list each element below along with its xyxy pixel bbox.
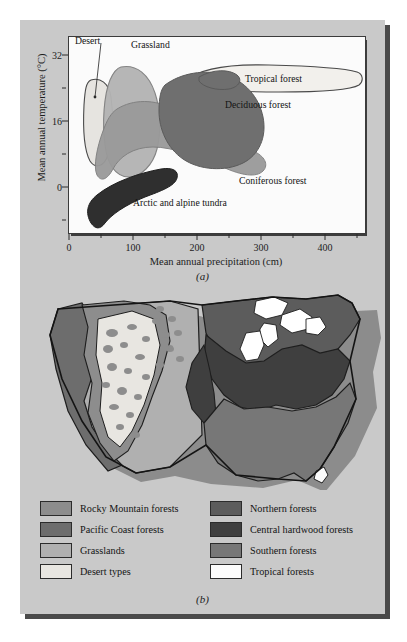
- legend-item-southern-forests[interactable]: Southern forests: [210, 540, 385, 561]
- panel-a-climate-chart: Mean annual temperature (°C) 32 16 0: [20, 20, 385, 270]
- figure-plate: Mean annual temperature (°C) 32 16 0: [20, 20, 385, 614]
- x-tick-label-100: 100: [118, 242, 148, 253]
- legend-swatch-grasslands: [40, 543, 72, 558]
- legend-swatch-central-hardwood-forests: [210, 522, 242, 537]
- biome-label-grassland: Grassland: [131, 39, 170, 50]
- x-tick-label-200: 200: [182, 242, 212, 253]
- y-tick-label-0: 0: [40, 182, 62, 193]
- legend-label-grasslands: Grasslands: [80, 545, 125, 556]
- panel-b-us-biome-map: [20, 275, 385, 490]
- legend-item-desert-types[interactable]: Desert types: [40, 561, 215, 582]
- x-tick-label-300: 300: [246, 242, 276, 253]
- legend-label-northern-forests: Northern forests: [250, 503, 316, 514]
- x-tick-label-0: 0: [54, 242, 84, 253]
- legend-item-northern-forests[interactable]: Northern forests: [210, 498, 385, 519]
- legend-item-central-hardwood-forests[interactable]: Central hardwood forests: [210, 519, 385, 540]
- legend-swatch-pacific-coast-forests: [40, 522, 72, 537]
- legend-column-left: Rocky Mountain forests Pacific Coast for…: [40, 498, 215, 582]
- legend-label-desert-types: Desert types: [80, 566, 131, 577]
- y-tick-label-16: 16: [40, 116, 62, 127]
- x-axis-title: Mean annual precipitation (cm): [68, 256, 364, 267]
- x-tick-label-400: 400: [310, 242, 340, 253]
- biome-label-deciduous-forest: Deciduous forest: [225, 99, 291, 110]
- biome-label-coniferous-forest: Coniferous forest: [239, 175, 307, 186]
- legend-label-tropical-forests: Tropical forests: [250, 566, 314, 577]
- legend-column-right: Northern forests Central hardwood forest…: [210, 498, 385, 582]
- legend-swatch-northern-forests: [210, 501, 242, 516]
- us-biome-map: [20, 275, 385, 490]
- biome-label-desert: Desert: [75, 36, 100, 46]
- figure-root: Mean annual temperature (°C) 32 16 0: [0, 0, 407, 642]
- map-legend: Rocky Mountain forests Pacific Coast for…: [20, 498, 385, 588]
- legend-swatch-desert-types: [40, 564, 72, 579]
- legend-swatch-southern-forests: [210, 543, 242, 558]
- legend-label-rocky-mountain-forests: Rocky Mountain forests: [80, 503, 178, 514]
- legend-swatch-tropical-forests: [210, 564, 242, 579]
- biome-label-arctic-alpine-tundra: Arctic and alpine tundra: [133, 197, 227, 208]
- biome-label-tropical-forest: Tropical forest: [245, 73, 302, 84]
- legend-item-grasslands[interactable]: Grasslands: [40, 540, 215, 561]
- legend-label-southern-forests: Southern forests: [250, 545, 317, 556]
- legend-item-tropical-forests[interactable]: Tropical forests: [210, 561, 385, 582]
- legend-item-rocky-mountain-forests[interactable]: Rocky Mountain forests: [40, 498, 215, 519]
- legend-label-pacific-coast-forests: Pacific Coast forests: [80, 524, 164, 535]
- chart-plot-area: Desert Grassland Tropical forest Deciduo…: [68, 36, 366, 234]
- legend-item-pacific-coast-forests[interactable]: Pacific Coast forests: [40, 519, 215, 540]
- y-tick-label-32: 32: [40, 50, 62, 61]
- desert-leader-dot: [94, 96, 97, 99]
- legend-label-central-hardwood-forests: Central hardwood forests: [250, 524, 353, 535]
- panel-b-caption: (b): [20, 593, 385, 605]
- legend-swatch-rocky-mountain-forests: [40, 501, 72, 516]
